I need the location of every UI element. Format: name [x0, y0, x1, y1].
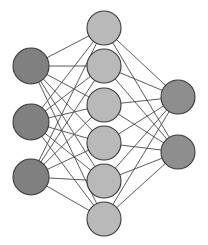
neuron-node-input-2 — [13, 104, 49, 140]
neuron-node-hidden-2 — [87, 49, 121, 83]
neuron-nodes-group — [13, 11, 195, 236]
neuron-node-hidden-5 — [87, 164, 121, 198]
neuron-node-hidden-6 — [87, 202, 121, 236]
neuron-node-hidden-1 — [87, 11, 121, 45]
neuron-node-input-1 — [13, 48, 49, 84]
neural-network-canvas — [0, 0, 208, 245]
neural-network-diagram — [0, 0, 208, 245]
neuron-node-input-3 — [13, 159, 49, 195]
neuron-node-output-1 — [161, 80, 195, 114]
neuron-node-output-2 — [161, 135, 195, 169]
neuron-node-hidden-3 — [87, 88, 121, 122]
neuron-node-hidden-4 — [87, 126, 121, 160]
